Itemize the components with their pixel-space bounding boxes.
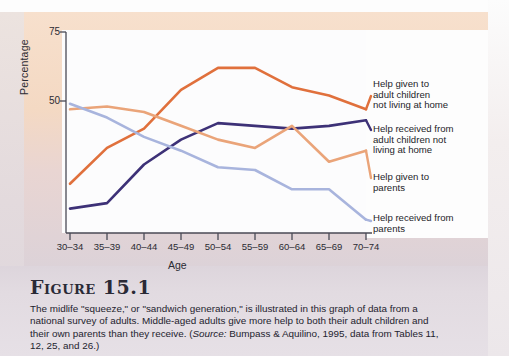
legend-label-line-1: Help given to [373, 172, 489, 183]
legend-label-line-3: living at home [373, 145, 489, 156]
legend-connector-2 [366, 151, 371, 178]
legend-connector-layer [366, 96, 371, 221]
legend-connector-1 [366, 120, 371, 130]
chart-series-layer [70, 68, 366, 220]
legend-label-line-2: parents [373, 183, 489, 194]
legend-label-line-1: Help given to [373, 79, 489, 90]
series-line-1 [70, 120, 366, 208]
legend-entry-help-received-parents: Help received from parents [373, 213, 489, 234]
x-tick-label-8: 70–74 [341, 241, 391, 252]
figure-number: Figure 15.1 [30, 276, 151, 298]
series-line-2 [70, 107, 366, 162]
line-chart: Percentage 75 50 [0, 0, 509, 280]
chart-axes [60, 32, 372, 240]
legend-connector-3 [366, 220, 371, 221]
caption-source-label: Source: [192, 328, 226, 339]
figure-caption: The midlife "squeeze," or "sandwich gene… [30, 303, 450, 353]
legend-label-line-1: Help received from [373, 213, 489, 224]
legend-connector-0 [366, 96, 371, 109]
figure-page: Percentage 75 50 [0, 0, 509, 356]
legend-label-line-1: Help received from [373, 124, 489, 135]
legend-entry-help-given-adult-children: Help given to adult children not living … [373, 79, 489, 111]
legend-entry-help-received-adult-children: Help received from adult children not li… [373, 124, 489, 156]
legend-label-line-3: not living at home [373, 100, 489, 111]
legend-label-line-2: parents [373, 224, 489, 235]
legend-entry-help-given-parents: Help given to parents [373, 172, 489, 193]
series-line-3 [70, 104, 366, 220]
x-axis-label: Age [168, 259, 187, 271]
